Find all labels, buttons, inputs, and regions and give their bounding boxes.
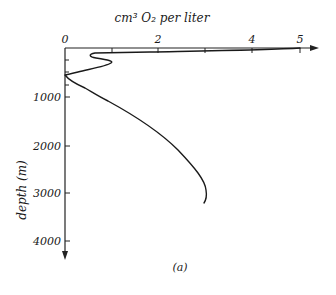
y-tick-label-4000: 4000 <box>32 235 61 248</box>
y-tick-label-1000: 1000 <box>33 91 61 104</box>
x-tick-label-2: 2 <box>154 33 162 46</box>
y-tick-label-3000: 3000 <box>33 187 61 200</box>
x-axis-title: cm³ O₂ per liter <box>115 11 211 25</box>
x-tick-label-4: 4 <box>248 33 256 46</box>
x-tick-label-0: 0 <box>62 33 69 46</box>
x-tick-label-5: 5 <box>297 33 304 46</box>
y-axis-arrow-icon <box>62 251 68 260</box>
y-axis-title: depth (m) <box>15 160 29 220</box>
y-tick-label-2000: 2000 <box>32 140 61 153</box>
y-ticks <box>65 60 70 241</box>
panel-label: (a) <box>172 261 187 274</box>
oxygen-profile-line <box>65 48 300 203</box>
x-axis-arrow-icon <box>310 45 319 51</box>
oxygen-depth-chart: cm³ O₂ per liter 0 2 4 5 1000 2000 3000 … <box>0 0 336 295</box>
